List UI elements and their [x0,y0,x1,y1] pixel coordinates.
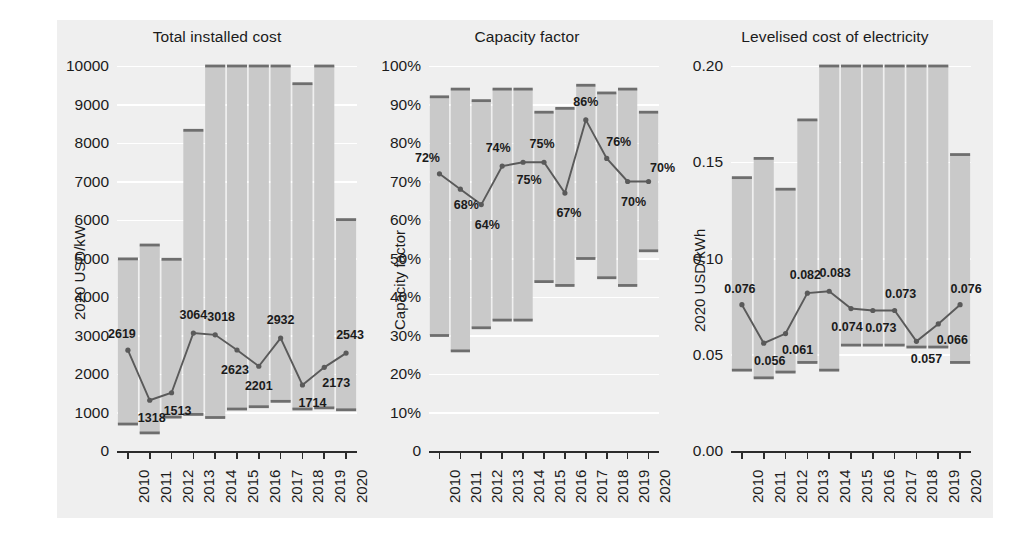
x-tick-mark [648,453,650,459]
data-point-marker [147,398,152,403]
data-value-label: 0.082 [790,268,821,282]
range-band [555,108,574,285]
range-band-lower-cap [597,276,616,279]
plot-area-1: 72%68%64%74%75%75%67%86%76%70%70% [377,20,677,518]
range-band-lower-cap [513,319,532,322]
range-band [732,178,752,371]
data-value-label: 75% [517,173,542,187]
data-value-label: 0.073 [865,321,896,335]
range-band-lower-cap [819,369,839,372]
x-tick-mark [606,453,608,459]
x-tick-mark [763,453,765,459]
plot-area-0: 2619131815133064301826232201293217142173… [57,20,377,518]
range-band-upper-cap [639,111,658,114]
range-band-upper-cap [576,84,595,87]
range-band-lower-cap [534,280,553,283]
range-band [906,66,926,347]
range-band [950,155,970,363]
data-value-label: 74% [486,141,511,155]
range-band-upper-cap [776,188,796,191]
data-point-marker [541,160,546,165]
range-band [430,97,449,336]
x-tick-mark [280,453,282,459]
range-band-lower-cap [555,284,574,287]
range-band [863,66,883,345]
x-tick-mark [323,453,325,459]
x-tick-mark [345,453,347,459]
x-tick-mark [171,453,173,459]
data-value-label: 2932 [267,313,295,327]
range-band-upper-cap [950,153,970,156]
range-band-lower-cap [336,408,356,411]
data-point-marker [278,336,283,341]
data-value-label: 2619 [108,327,136,341]
data-value-label: 1714 [299,396,327,410]
data-value-label: 2543 [336,328,364,342]
range-band-lower-cap [754,376,774,379]
x-tick-mark [236,453,238,459]
x-tick-mark [480,453,482,459]
range-band [292,84,312,409]
data-point-marker [191,330,196,335]
data-value-label: 0.066 [937,333,968,347]
range-band-upper-cap [205,65,225,68]
x-tick-mark [585,453,587,459]
x-tick-mark [460,453,462,459]
x-tick-mark [543,453,545,459]
range-band-upper-cap [819,65,839,68]
data-point-marker [892,308,897,313]
data-point-marker [562,190,567,195]
range-band-upper-cap [863,65,883,68]
range-band-lower-cap [472,326,491,329]
range-band-lower-cap [906,346,926,349]
range-band-lower-cap [950,361,970,364]
range-band [472,101,491,328]
data-point-marker [739,302,744,307]
data-value-label: 72% [415,151,440,165]
range-band-upper-cap [227,65,247,68]
range-band-upper-cap [928,65,948,68]
data-value-label: 86% [573,95,598,109]
range-band-lower-cap [493,319,512,322]
data-value-label: 70% [650,161,675,175]
range-band-upper-cap [732,176,752,179]
data-value-label: 0.076 [724,282,755,296]
data-point-marker [213,332,218,337]
data-value-label: 2173 [322,376,350,390]
x-tick-mark [564,453,566,459]
range-band-upper-cap [336,218,356,221]
range-band [140,245,160,433]
range-band-upper-cap [472,99,491,102]
range-band-lower-cap [576,257,595,260]
data-point-marker [458,187,463,192]
data-value-label: 64% [475,218,500,232]
range-band-lower-cap [118,423,138,426]
range-band [227,66,247,409]
range-band-lower-cap [451,350,470,353]
range-band-upper-cap [430,95,449,98]
range-band [576,85,595,258]
range-band-lower-cap [140,432,160,435]
range-band-lower-cap [797,361,817,364]
data-point-marker [805,291,810,296]
range-band-lower-cap [205,416,225,419]
x-tick-mark [850,453,852,459]
range-band-upper-cap [183,129,203,132]
data-value-label: 1513 [164,404,192,418]
data-value-label: 0.073 [885,287,916,301]
range-band-upper-cap [555,107,574,110]
data-value-label: 0.057 [911,352,942,366]
x-tick-mark [872,453,874,459]
range-band-upper-cap [597,92,616,95]
data-point-marker [234,347,239,352]
range-band-upper-cap [841,65,861,68]
range-band [493,89,512,320]
data-value-label: 0.076 [950,282,981,296]
range-band-upper-cap [292,82,312,85]
x-tick-mark [193,453,195,459]
range-band-upper-cap [271,65,291,68]
range-band-lower-cap [885,344,905,347]
range-band-lower-cap [249,405,269,408]
x-tick-mark [828,453,830,459]
range-band-lower-cap [732,369,752,372]
